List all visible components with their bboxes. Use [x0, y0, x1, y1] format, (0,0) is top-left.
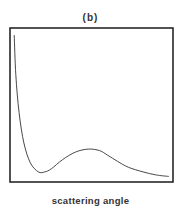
- plot-frame: [10, 28, 173, 182]
- intensity-curve: [14, 35, 169, 176]
- plot-area: [0, 0, 181, 218]
- x-axis-label: scattering angle: [0, 195, 181, 206]
